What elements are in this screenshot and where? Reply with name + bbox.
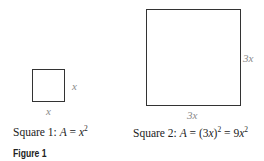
figure-label: Figure 1 <box>13 147 46 159</box>
square-1-side-bottom-label: x <box>46 106 51 117</box>
square-2 <box>146 9 241 106</box>
square-2-side-bottom-label: 3x <box>187 110 197 121</box>
square-2-caption: Square 2: A = (3x)2 = 9x2 <box>133 128 248 140</box>
square-1 <box>32 69 65 102</box>
square-2-side-right-label: 3x <box>243 53 253 64</box>
square-1-side-right-label: x <box>72 81 77 92</box>
square-1-caption: Square 1: A = x2 <box>13 127 88 139</box>
